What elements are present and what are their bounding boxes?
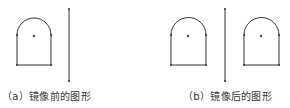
figure-a xyxy=(16,8,70,82)
arc-center-point xyxy=(187,35,189,37)
arc-center-point-mirrored xyxy=(260,35,262,37)
caption-b: （b）镜像后的图形 xyxy=(183,88,272,103)
figure-b xyxy=(170,8,280,82)
arch-shape-mirrored xyxy=(244,18,279,66)
arch-shape-original xyxy=(171,18,206,66)
caption-a: （a）镜像前的图形 xyxy=(2,88,91,103)
arch-shape-original xyxy=(17,18,51,65)
arc-center-point xyxy=(33,35,35,37)
